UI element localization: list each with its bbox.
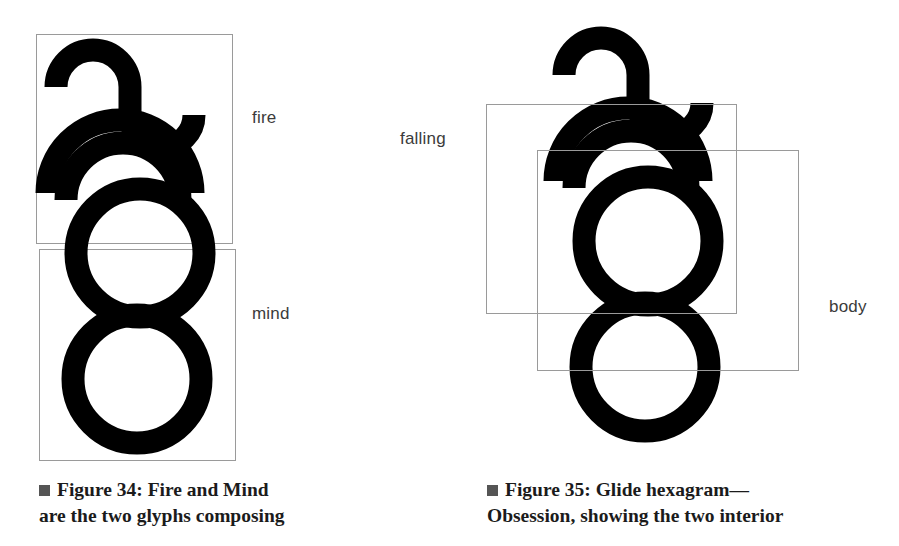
filled-square-bullet-icon	[487, 485, 498, 496]
body-box	[538, 151, 799, 371]
label-body: body	[829, 297, 867, 317]
figure-35-caption-line2: Obsession, showing the two interior	[487, 503, 783, 529]
figure-35-caption-line1: Figure 35: Glide hexagram—	[487, 477, 783, 503]
figure-35-caption: Figure 35: Glide hexagram— Obsession, sh…	[487, 477, 783, 529]
figure-35-boxes	[0, 0, 899, 470]
page-root: fire mind Figure 34: Fire and Mind are t…	[0, 0, 899, 546]
falling-box	[487, 105, 737, 314]
figure-35-block: falling body Figure 35: Glide hexagram— …	[0, 0, 899, 546]
caption-line1-text: Figure 35: Glide hexagram—	[505, 479, 749, 500]
label-falling: falling	[400, 129, 446, 149]
